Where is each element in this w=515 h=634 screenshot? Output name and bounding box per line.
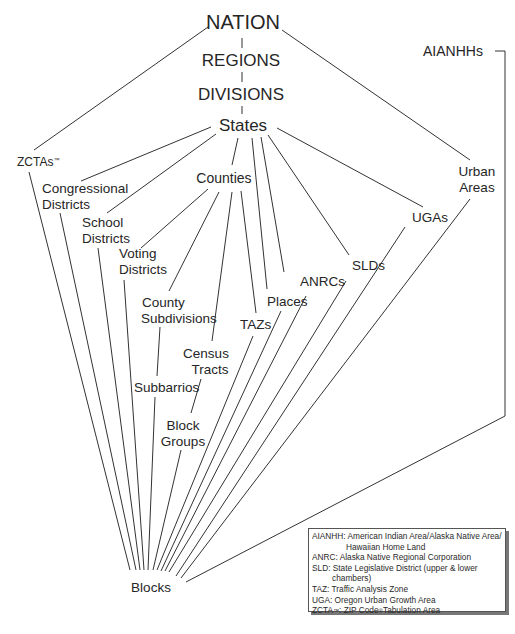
voting-line-1: Voting <box>119 246 167 262</box>
trademark-mark: ™ <box>333 608 339 614</box>
node-tazs: TAZs <box>240 318 271 332</box>
legend-sld: SLD: State Legislative District (upper &… <box>312 563 502 574</box>
urban-line-2: Areas <box>459 180 496 196</box>
legend-aianhh-cont: Hawaiian Home Land <box>312 542 502 553</box>
legend-box: AIANHH: American Indian Area/Alaska Nati… <box>308 528 506 612</box>
node-urban-areas: Urban Areas <box>459 164 496 195</box>
school-line-1: School <box>82 215 130 231</box>
node-zctas: ZCTAs™ <box>17 156 59 168</box>
legend-zcta: ZCTA™: ZIP Code®Tabulation Area <box>312 605 502 616</box>
congressional-line-2: Districts <box>42 197 128 213</box>
node-counties: Counties <box>196 171 251 185</box>
node-voting-districts: Voting Districts <box>119 246 167 277</box>
node-ugas: UGAs <box>412 211 448 225</box>
node-regions: REGIONS <box>202 52 280 69</box>
node-county-subdivisions: County Subdivisions <box>141 295 217 326</box>
node-block-groups: Block Groups <box>161 418 205 449</box>
node-places: Places <box>267 295 308 309</box>
hierarchy-diagram: NATION REGIONS DIVISIONS States AIANHHs … <box>0 0 515 634</box>
node-anrcs: ANRCs <box>300 275 345 289</box>
node-nation: NATION <box>206 12 280 32</box>
urban-line-1: Urban <box>459 164 496 180</box>
node-subbarrios: Subbarrios <box>134 381 199 395</box>
node-states: States <box>219 117 267 134</box>
county-sub-line-2: Subdivisions <box>141 311 217 327</box>
legend-sld-cont: chambers) <box>312 573 502 584</box>
legend-zcta-suffix: Tabulation Area <box>383 605 440 615</box>
node-census-tracts: Census Tracts <box>183 346 229 377</box>
node-school-districts: School Districts <box>82 215 130 246</box>
school-line-2: Districts <box>82 231 130 247</box>
node-slds: SLDs <box>352 259 385 273</box>
census-tracts-line-2: Tracts <box>183 362 229 378</box>
legend-aianhh: AIANHH: American Indian Area/Alaska Nati… <box>312 531 502 542</box>
legend-taz: TAZ: Traffic Analysis Zone <box>312 584 502 595</box>
legend-anrc: ANRC: Alaska Native Regional Corporation <box>312 552 502 563</box>
node-blocks: Blocks <box>131 581 171 595</box>
block-groups-line-2: Groups <box>161 434 205 450</box>
trademark-mark: ™ <box>53 157 59 163</box>
block-groups-line-1: Block <box>161 418 205 434</box>
legend-zcta-prefix: ZCTA <box>312 605 333 615</box>
census-tracts-line-1: Census <box>183 346 229 362</box>
county-sub-line-1: County <box>141 295 217 311</box>
zctas-label: ZCTAs <box>17 155 53 169</box>
legend-zcta-mid: : ZIP Code <box>339 605 379 615</box>
node-divisions: DIVISIONS <box>198 86 284 103</box>
legend-uga: UGA: Oregon Urban Growth Area <box>312 595 502 606</box>
node-aianhhs: AIANHHs <box>423 44 483 58</box>
registered-mark: ® <box>379 608 383 614</box>
congressional-line-1: Congressional <box>42 181 128 197</box>
voting-line-2: Districts <box>119 262 167 278</box>
node-congressional-districts: Congressional Districts <box>42 181 128 212</box>
